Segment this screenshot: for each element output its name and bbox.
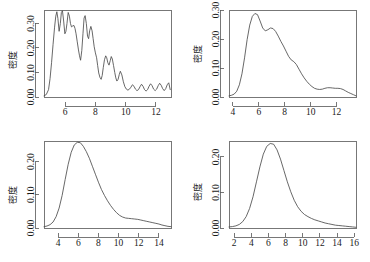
y-tick-label: 0.30 xyxy=(26,15,36,32)
density-plot-figure: 0.000.100.200.30密度681012 0.000.100.200.3… xyxy=(0,0,370,262)
panel-top-right: 0.000.100.200.30密度4681012 xyxy=(185,0,370,131)
density-curve xyxy=(229,13,356,95)
x-tick-label: 14 xyxy=(332,238,342,248)
y-tick-label: 0.00 xyxy=(211,88,221,105)
y-tick-label: 0.00 xyxy=(26,88,36,105)
x-tick-label: 6 xyxy=(76,238,81,248)
x-tick-label: 10 xyxy=(114,238,124,248)
x-tick-label: 10 xyxy=(298,238,308,248)
x-tick-label: 6 xyxy=(256,107,261,117)
x-tick-label: 4 xyxy=(56,238,61,248)
x-tick-label: 4 xyxy=(231,107,236,117)
y-tick-label: 0.10 xyxy=(211,59,221,76)
y-tick-label: 0.20 xyxy=(211,30,221,47)
y-tick-label: 0.00 xyxy=(211,219,221,236)
y-tick-label: 0.10 xyxy=(26,64,36,81)
panel-bottom-right: 0.000.100.20密度246810121416 xyxy=(185,131,370,262)
x-tick-label: 12 xyxy=(332,107,342,117)
y-tick-label: 0.00 xyxy=(26,219,36,236)
x-tick-label: 14 xyxy=(154,238,164,248)
x-tick-label: 16 xyxy=(350,238,360,248)
x-tick-label: 6 xyxy=(63,107,68,117)
x-tick-label: 12 xyxy=(151,107,161,117)
y-axis-title: 密度 xyxy=(192,45,203,63)
panel-bottom-left-plot: 0.000.100.20密度468101214 xyxy=(7,141,171,248)
panel-bottom-right-svg: 0.000.100.20密度246810121416 xyxy=(185,131,370,262)
x-tick-label: 8 xyxy=(96,238,101,248)
panel-top-left: 0.000.100.200.30密度681012 xyxy=(0,0,185,131)
panel-bottom-right-plot: 0.000.100.20密度246810121416 xyxy=(192,141,359,248)
panel-bottom-left-svg: 0.000.100.20密度468101214 xyxy=(0,131,185,262)
y-tick-label: 0.20 xyxy=(26,153,36,170)
y-axis-title: 密度 xyxy=(7,186,18,204)
y-tick-label: 0.10 xyxy=(26,186,36,203)
y-tick-label: 0.30 xyxy=(211,1,221,18)
y-tick-label: 0.10 xyxy=(211,184,221,201)
x-tick-label: 2 xyxy=(232,238,237,248)
y-tick-label: 0.20 xyxy=(26,39,36,56)
y-tick-label: 0.20 xyxy=(211,148,221,165)
x-tick-label: 8 xyxy=(283,238,288,248)
y-axis-title: 密度 xyxy=(192,183,203,201)
panel-top-right-svg: 0.000.100.200.30密度4681012 xyxy=(185,0,370,131)
panel-top-right-plot: 0.000.100.200.30密度4681012 xyxy=(192,1,356,117)
x-tick-label: 4 xyxy=(249,238,254,248)
x-tick-label: 12 xyxy=(315,238,325,248)
density-curve xyxy=(44,11,170,96)
x-tick-label: 8 xyxy=(282,107,287,117)
x-tick-label: 12 xyxy=(134,238,144,248)
x-tick-label: 10 xyxy=(121,107,131,117)
x-tick-label: 10 xyxy=(306,107,316,117)
panel-top-left-svg: 0.000.100.200.30密度681012 xyxy=(0,0,185,131)
panel-bottom-left: 0.000.100.20密度468101214 xyxy=(0,131,185,262)
density-curve xyxy=(229,143,356,227)
x-tick-label: 8 xyxy=(93,107,98,117)
panel-top-left-plot: 0.000.100.200.30密度681012 xyxy=(7,10,171,117)
y-axis-title: 密度 xyxy=(7,51,18,69)
x-tick-label: 6 xyxy=(266,238,271,248)
density-curve xyxy=(44,142,171,226)
